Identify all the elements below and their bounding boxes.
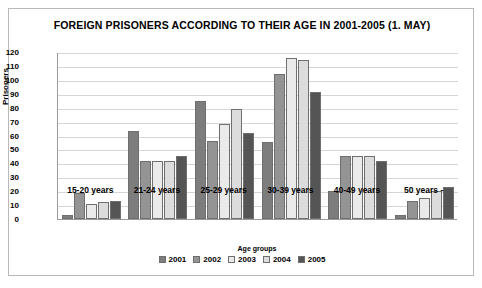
x-axis-tick-label: 30-39 years xyxy=(257,185,324,195)
y-axis-tick-label: 0 xyxy=(0,216,19,224)
bar[interactable] xyxy=(86,204,97,219)
y-axis-tick-label: 80 xyxy=(0,105,19,113)
y-axis-tick-label: 10 xyxy=(0,202,19,210)
bar[interactable] xyxy=(262,142,273,219)
bar[interactable] xyxy=(310,92,321,219)
bar[interactable] xyxy=(128,131,139,219)
x-axis-tick-label: 40-49 years xyxy=(324,185,391,195)
x-axis-tick-label: 25-29 years xyxy=(190,185,257,195)
y-axis-tick-label: 60 xyxy=(0,133,19,141)
bar[interactable] xyxy=(298,60,309,219)
bar[interactable] xyxy=(407,201,418,219)
y-axis-label: Prisoners xyxy=(1,68,10,105)
y-axis-tick-label: 30 xyxy=(0,174,19,182)
x-axis-tick-label: 15-20 years xyxy=(57,185,124,195)
bar[interactable] xyxy=(74,193,85,219)
bar[interactable] xyxy=(243,133,254,219)
y-axis-tick-label: 120 xyxy=(0,49,19,57)
x-axis-tick-label: 21-24 years xyxy=(124,185,191,195)
legend-label: 2002 xyxy=(203,255,221,264)
chart-title: FOREIGN PRISONERS ACCORDING TO THEIR AGE… xyxy=(9,19,475,31)
bar[interactable] xyxy=(231,109,242,219)
legend-label: 2001 xyxy=(169,255,187,264)
legend-label: 2005 xyxy=(308,255,326,264)
y-axis-tick-label: 40 xyxy=(0,160,19,168)
bar[interactable] xyxy=(62,215,73,219)
bar[interactable] xyxy=(395,215,406,219)
y-axis-tick-label: 100 xyxy=(0,77,19,85)
legend-swatch-icon xyxy=(263,256,270,263)
bar[interactable] xyxy=(219,124,230,219)
legend-label: 2004 xyxy=(273,255,291,264)
legend-item-2001[interactable]: 2001 xyxy=(159,255,187,264)
bar[interactable] xyxy=(274,74,285,219)
screenshot-page: FOREIGN PRISONERS ACCORDING TO THEIR AGE… xyxy=(0,0,482,288)
legend-item-2004[interactable]: 2004 xyxy=(263,255,291,264)
bar[interactable] xyxy=(431,191,442,219)
bar[interactable] xyxy=(110,201,121,219)
x-axis-label: Age groups xyxy=(57,245,457,252)
chart-legend: 20012002200320042005 xyxy=(9,255,475,264)
legend-item-2003[interactable]: 2003 xyxy=(228,255,256,264)
y-axis-tick-label: 90 xyxy=(0,91,19,99)
bar[interactable] xyxy=(207,141,218,219)
bar[interactable] xyxy=(98,202,109,219)
legend-item-2005[interactable]: 2005 xyxy=(298,255,326,264)
y-axis-tick-label: 20 xyxy=(0,188,19,196)
bar[interactable] xyxy=(195,101,206,219)
y-axis-tick-label: 50 xyxy=(0,146,19,154)
legend-swatch-icon xyxy=(193,256,200,263)
legend-swatch-icon xyxy=(298,256,305,263)
y-axis-tick-label: 70 xyxy=(0,119,19,127)
bar[interactable] xyxy=(328,191,339,219)
legend-swatch-icon xyxy=(228,256,235,263)
legend-item-2002[interactable]: 2002 xyxy=(193,255,221,264)
y-axis-tick-label: 110 xyxy=(0,63,19,71)
bar[interactable] xyxy=(419,198,430,219)
chart-container: FOREIGN PRISONERS ACCORDING TO THEIR AGE… xyxy=(8,8,474,276)
x-axis-tick-label: 50 years - xyxy=(390,185,457,195)
legend-swatch-icon xyxy=(159,256,166,263)
legend-label: 2003 xyxy=(238,255,256,264)
